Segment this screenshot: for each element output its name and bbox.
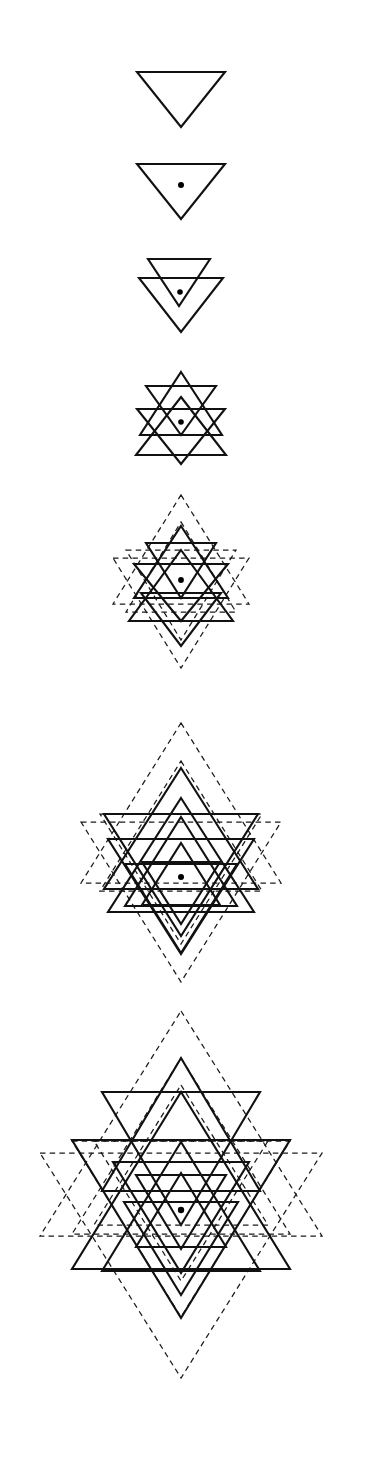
bindu-dot: [178, 1207, 184, 1213]
dashed-downward-triangle-outer: [81, 822, 281, 982]
bindu-dot: [178, 182, 184, 188]
figure-stage-2: Stage 2: the same triangle with the bind…: [0, 152, 383, 247]
bindu-dot: [177, 289, 183, 295]
downward-triangle-large: [139, 278, 223, 332]
sri-yantra-plate: Stage 1: a single downward-pointing tria…: [0, 0, 383, 1473]
bindu-dot: [178, 874, 184, 880]
figure-stage-6: Stage 6: further interlocking triangles …: [0, 720, 383, 995]
upward-triangle-wide: [129, 550, 233, 621]
figure-1-canvas: [0, 60, 383, 150]
dashed-upward-triangle-inner: [100, 761, 262, 891]
bindu-dot: [178, 577, 184, 583]
downward-triangle-small: [148, 259, 210, 306]
upward-triangle-large: [140, 372, 222, 435]
dashed-downward-triangle-middle: [72, 1141, 290, 1317]
figure-4-canvas: [0, 364, 383, 474]
bindu-dot: [178, 419, 184, 425]
upward-triangle-large: [134, 526, 228, 598]
dashed-downward-triangle-outer: [113, 558, 249, 668]
figure-stage-3: Stage 3: a second larger downward triang…: [0, 250, 383, 350]
dashed-downward-triangle-outermost: [40, 1153, 322, 1378]
figure-2-canvas: [0, 152, 383, 247]
downward-triangle-outer: [137, 164, 225, 219]
dashed-upward-triangle-outer: [81, 723, 281, 883]
figure-stage-5: Stage 5: dashed construction star enclos…: [0, 488, 383, 688]
figure-stage-1: Stage 1: a single downward-pointing tria…: [0, 60, 383, 150]
figure-3-canvas: [0, 250, 383, 350]
figure-5-canvas: [0, 488, 383, 688]
figure-7-canvas: [0, 1005, 383, 1400]
figure-stage-4: Stage 4: upward triangles added, forming…: [0, 364, 383, 474]
dashed-upward-triangle-inner: [94, 1085, 268, 1225]
downward-triangle-outer: [137, 72, 225, 127]
figure-stage-7: Stage 7: the completed nine interlocking…: [0, 1005, 383, 1400]
downward-triangle-1-outermost: [72, 1140, 290, 1318]
figure-6-canvas: [0, 720, 383, 995]
